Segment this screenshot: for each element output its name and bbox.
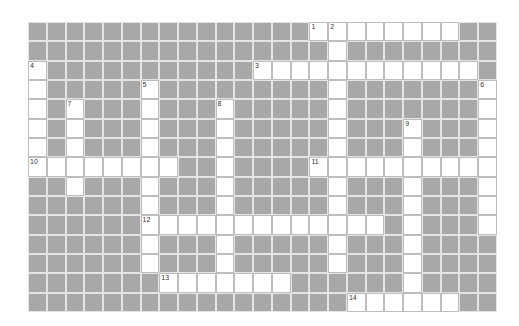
answer-cell[interactable] <box>159 215 178 234</box>
answer-cell[interactable]: 4 <box>28 61 47 80</box>
answer-cell[interactable] <box>328 138 347 157</box>
answer-cell[interactable] <box>403 273 422 292</box>
answer-cell[interactable] <box>384 22 403 41</box>
answer-cell[interactable] <box>478 177 497 196</box>
answer-cell[interactable] <box>328 235 347 254</box>
answer-cell[interactable] <box>328 215 347 234</box>
answer-cell[interactable]: 1 <box>309 22 328 41</box>
answer-cell[interactable]: 2 <box>328 22 347 41</box>
answer-cell[interactable] <box>216 196 235 215</box>
answer-cell[interactable] <box>366 293 385 312</box>
answer-cell[interactable] <box>328 61 347 80</box>
answer-cell[interactable] <box>291 61 310 80</box>
answer-cell[interactable]: 9 <box>403 119 422 138</box>
answer-cell[interactable] <box>478 119 497 138</box>
answer-cell[interactable] <box>347 157 366 176</box>
answer-cell[interactable] <box>422 157 441 176</box>
answer-cell[interactable] <box>328 157 347 176</box>
answer-cell[interactable] <box>347 61 366 80</box>
answer-cell[interactable] <box>422 22 441 41</box>
answer-cell[interactable] <box>403 235 422 254</box>
answer-cell[interactable] <box>328 99 347 118</box>
answer-cell[interactable]: 14 <box>347 293 366 312</box>
answer-cell[interactable] <box>234 273 253 292</box>
answer-cell[interactable] <box>478 196 497 215</box>
answer-cell[interactable] <box>141 177 160 196</box>
answer-cell[interactable] <box>66 119 85 138</box>
answer-cell[interactable] <box>141 157 160 176</box>
answer-cell[interactable] <box>66 138 85 157</box>
answer-cell[interactable] <box>422 293 441 312</box>
answer-cell[interactable] <box>84 157 103 176</box>
answer-cell[interactable] <box>253 273 272 292</box>
answer-cell[interactable] <box>28 119 47 138</box>
answer-cell[interactable] <box>234 215 253 234</box>
answer-cell[interactable] <box>328 41 347 60</box>
answer-cell[interactable] <box>197 273 216 292</box>
answer-cell[interactable] <box>309 61 328 80</box>
answer-cell[interactable]: 13 <box>159 273 178 292</box>
answer-cell[interactable] <box>478 215 497 234</box>
answer-cell[interactable] <box>403 177 422 196</box>
answer-cell[interactable]: 3 <box>253 61 272 80</box>
answer-cell[interactable] <box>28 80 47 99</box>
answer-cell[interactable] <box>141 254 160 273</box>
answer-cell[interactable] <box>328 119 347 138</box>
answer-cell[interactable] <box>441 22 460 41</box>
answer-cell[interactable] <box>441 157 460 176</box>
answer-cell[interactable] <box>459 61 478 80</box>
answer-cell[interactable] <box>384 293 403 312</box>
answer-cell[interactable] <box>328 80 347 99</box>
answer-cell[interactable] <box>103 157 122 176</box>
answer-cell[interactable] <box>216 177 235 196</box>
answer-cell[interactable] <box>478 157 497 176</box>
answer-cell[interactable]: 10 <box>28 157 47 176</box>
answer-cell[interactable] <box>216 119 235 138</box>
answer-cell[interactable] <box>216 254 235 273</box>
answer-cell[interactable]: 5 <box>141 80 160 99</box>
answer-cell[interactable] <box>272 61 291 80</box>
answer-cell[interactable]: 7 <box>66 99 85 118</box>
answer-cell[interactable] <box>178 273 197 292</box>
answer-cell[interactable] <box>403 293 422 312</box>
answer-cell[interactable] <box>66 157 85 176</box>
answer-cell[interactable] <box>272 215 291 234</box>
answer-cell[interactable] <box>253 215 272 234</box>
answer-cell[interactable]: 11 <box>309 157 328 176</box>
answer-cell[interactable] <box>347 22 366 41</box>
answer-cell[interactable] <box>441 61 460 80</box>
answer-cell[interactable] <box>478 138 497 157</box>
answer-cell[interactable] <box>459 157 478 176</box>
answer-cell[interactable] <box>159 157 178 176</box>
answer-cell[interactable] <box>122 157 141 176</box>
answer-cell[interactable] <box>178 215 197 234</box>
answer-cell[interactable] <box>216 157 235 176</box>
answer-cell[interactable] <box>216 138 235 157</box>
answer-cell[interactable] <box>66 177 85 196</box>
answer-cell[interactable] <box>366 61 385 80</box>
answer-cell[interactable] <box>366 157 385 176</box>
answer-cell[interactable] <box>347 215 366 234</box>
answer-cell[interactable] <box>328 177 347 196</box>
answer-cell[interactable]: 12 <box>141 215 160 234</box>
answer-cell[interactable] <box>422 61 441 80</box>
answer-cell[interactable]: 6 <box>478 80 497 99</box>
answer-cell[interactable] <box>403 138 422 157</box>
answer-cell[interactable] <box>28 99 47 118</box>
answer-cell[interactable] <box>403 196 422 215</box>
answer-cell[interactable] <box>216 235 235 254</box>
answer-cell[interactable] <box>47 157 66 176</box>
answer-cell[interactable] <box>403 157 422 176</box>
answer-cell[interactable] <box>366 22 385 41</box>
answer-cell[interactable] <box>328 254 347 273</box>
answer-cell[interactable] <box>441 293 460 312</box>
answer-cell[interactable] <box>309 215 328 234</box>
answer-cell[interactable] <box>141 99 160 118</box>
answer-cell[interactable] <box>197 215 216 234</box>
answer-cell[interactable]: 8 <box>216 99 235 118</box>
answer-cell[interactable] <box>384 61 403 80</box>
answer-cell[interactable] <box>216 273 235 292</box>
answer-cell[interactable] <box>328 196 347 215</box>
answer-cell[interactable] <box>216 215 235 234</box>
answer-cell[interactable] <box>478 99 497 118</box>
